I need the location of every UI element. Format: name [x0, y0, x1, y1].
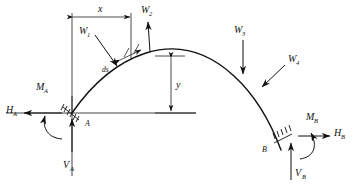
reaction-VA-sub: A: [69, 165, 74, 172]
support-B-label: B: [262, 145, 267, 154]
reaction-VB-sub: B: [302, 173, 306, 180]
reaction-HA: H A: [5, 104, 62, 117]
dimension-x-label: x: [97, 3, 103, 14]
element-ds: ds: [102, 44, 141, 74]
load-W4-arrow: [262, 65, 285, 87]
support-A-label: A: [84, 119, 90, 128]
ds-normal-left: [124, 48, 129, 57]
ds-label: ds: [102, 65, 109, 74]
reaction-HB-sub: B: [341, 133, 345, 140]
load-W4-sub: 4: [296, 59, 300, 66]
reaction-VB: V B: [291, 143, 306, 180]
load-W3-sub: 3: [241, 30, 246, 37]
load-W3: W 3: [234, 24, 246, 74]
load-W2-arrow: [148, 22, 150, 52]
load-W1-arrow: [95, 35, 117, 66]
reaction-MA: M A: [35, 81, 62, 139]
dimension-x: x: [73, 3, 130, 17]
reaction-MB: M B: [300, 111, 318, 159]
reaction-MA-arc: [44, 116, 62, 139]
load-W4: W 4: [262, 53, 300, 87]
reaction-MB-sub: B: [314, 117, 318, 124]
load-W1: W 1: [79, 25, 117, 66]
load-W1-sub: 1: [87, 31, 90, 38]
diagram-canvas: A B x y: [0, 0, 361, 187]
reaction-HA-sub: A: [12, 110, 17, 117]
arch-free-body-diagram: A B x y: [0, 0, 361, 187]
reaction-HB: H B: [298, 127, 345, 140]
reaction-MA-sub: A: [43, 87, 48, 94]
reference-lines: [6, 13, 196, 176]
load-W2-sub: 2: [149, 10, 153, 17]
reaction-MB-arc: [300, 133, 314, 159]
dimension-y: y: [155, 56, 196, 113]
dimension-y-label: y: [175, 79, 181, 90]
reaction-VA: V A: [63, 119, 74, 172]
load-W2: W 2: [141, 4, 153, 52]
